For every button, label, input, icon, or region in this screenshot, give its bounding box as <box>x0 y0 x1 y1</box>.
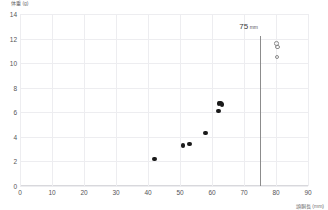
gridline-vertical <box>212 14 213 186</box>
reference-line-value: 75 <box>239 22 248 31</box>
y-tick-label: 4 <box>13 133 17 140</box>
gridline-vertical <box>116 14 117 186</box>
data-point <box>152 157 156 161</box>
data-point <box>220 102 224 106</box>
gridline-vertical <box>180 14 181 186</box>
x-tick-label: 20 <box>80 189 87 196</box>
y-axis-title: 体重 (g) <box>11 0 29 7</box>
scatter-chart: 体重 (g) 010203040506070809002468101214 75… <box>0 0 328 210</box>
gridline-horizontal <box>20 112 308 113</box>
y-tick-label: 0 <box>13 183 17 190</box>
gridline-vertical <box>52 14 53 186</box>
x-tick-label: 50 <box>176 189 183 196</box>
y-tick-label: 14 <box>10 11 17 18</box>
y-tick-label: 2 <box>13 158 17 165</box>
y-tick-label: 10 <box>10 60 17 67</box>
gridline-vertical <box>308 14 309 186</box>
x-tick-label: 90 <box>304 189 311 196</box>
y-tick-label: 8 <box>13 84 17 91</box>
x-tick-label: 10 <box>48 189 55 196</box>
gridline-horizontal <box>20 137 308 138</box>
x-tick-label: 70 <box>240 189 247 196</box>
plot-area: 010203040506070809002468101214 75 mm <box>20 14 308 186</box>
gridline-horizontal <box>20 88 308 89</box>
reference-line <box>260 36 261 186</box>
x-axis-title: 頭胴長 (mm) <box>296 203 324 210</box>
gridline-horizontal <box>20 186 308 187</box>
gridline-vertical <box>20 14 21 186</box>
data-point <box>275 45 280 50</box>
x-tick-label: 40 <box>144 189 151 196</box>
reference-line-unit: mm <box>248 24 258 30</box>
data-point <box>216 109 220 113</box>
gridline-horizontal <box>20 39 308 40</box>
data-point <box>187 142 191 146</box>
gridline-horizontal <box>20 14 308 15</box>
x-tick-label: 60 <box>208 189 215 196</box>
data-point <box>275 55 280 60</box>
data-point <box>203 131 207 135</box>
y-tick-label: 12 <box>10 35 17 42</box>
x-tick-label: 80 <box>272 189 279 196</box>
gridline-vertical <box>84 14 85 186</box>
y-tick-label: 6 <box>13 109 17 116</box>
gridline-vertical <box>148 14 149 186</box>
gridline-vertical <box>244 14 245 186</box>
x-tick-label: 30 <box>112 189 119 196</box>
gridline-horizontal <box>20 63 308 64</box>
data-point <box>181 143 185 147</box>
x-tick-label: 0 <box>18 189 22 196</box>
gridline-horizontal <box>20 161 308 162</box>
gridline-vertical <box>276 14 277 186</box>
reference-line-label: 75 mm <box>239 22 260 31</box>
